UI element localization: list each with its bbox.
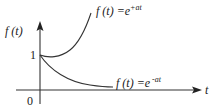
decay-label-exponent: -at xyxy=(150,75,161,84)
decay-label-main: f (t) =e xyxy=(116,76,150,90)
y-tick-label-one: 1 xyxy=(30,49,36,61)
origin-label: 0 xyxy=(27,95,33,107)
growth-label-main: f (t) =e xyxy=(96,4,130,18)
x-axis-label: t xyxy=(205,84,208,96)
growth-curve xyxy=(40,13,91,57)
y-axis-label: f (t) xyxy=(5,25,23,37)
decay-curve-label: f (t) =e -at xyxy=(116,76,161,89)
growth-label-exponent: +at xyxy=(130,3,142,12)
decay-curve xyxy=(40,55,113,87)
growth-curve-label: f (t) =e+at xyxy=(96,4,142,17)
